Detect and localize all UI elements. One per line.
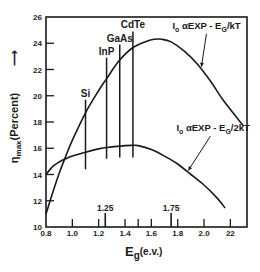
y-tick-label: 24 [33, 39, 42, 48]
y-axis-unit: (Percent) [8, 92, 20, 140]
x-tick-label: 0.8 [40, 229, 52, 238]
curve-label-part: αEXP - E [183, 122, 225, 133]
x-tick-label: 1.2 [93, 229, 105, 238]
x-tick-label: 1.0 [67, 229, 79, 238]
annotation-arrow-line [188, 136, 210, 170]
x-axis-ticks: 0.81.01.21.41.61.82.022 [40, 219, 235, 238]
curve-annotations: Io αEXP - EG/kTIo αEXP - EG/2kT [172, 20, 250, 171]
y-axis-arrow-icon: ⟶ [8, 50, 20, 66]
y-axis-sub: max [14, 140, 23, 157]
curve-label-part: /kT [227, 20, 241, 31]
y-tick-label: 18 [33, 118, 42, 127]
x-tick-label: 2.0 [198, 229, 210, 238]
material-label-cdte: CdTe [121, 19, 146, 30]
x-axis-title: Eg(e.v.) [125, 244, 162, 261]
y-axis-title: ηmax(Percent) ⟶ [8, 50, 23, 163]
efficiency-vs-bandgap-chart: 101214161820222426 0.81.01.21.41.61.82.0… [0, 0, 260, 272]
curve-label-part: /2kT [231, 122, 250, 133]
x-tick-label: 1.8 [172, 229, 184, 238]
y-tick-label: 12 [33, 197, 42, 206]
x-axis-unit: (e.v.) [140, 246, 163, 257]
curve-label: Io αEXP - EG/2kT [176, 122, 250, 135]
y-tick-label: 26 [33, 13, 42, 22]
y-tick-label: 22 [33, 66, 42, 75]
x-axis-symbol: E [125, 244, 134, 259]
marker-tick-label: 1.25 [97, 203, 114, 213]
material-label-inp: InP [99, 46, 115, 57]
curve-label: Io αEXP - EG/kT [172, 20, 240, 33]
material-label-gaas: GaAs [107, 33, 134, 44]
x-tick-label: 22 [226, 229, 235, 238]
svg-text:ηmax(Percent): ηmax(Percent) [8, 92, 23, 163]
marker-tick-label: 1.75 [163, 203, 180, 213]
curve-label-part: αEXP - E [179, 20, 221, 31]
y-tick-label: 16 [33, 144, 42, 153]
arrow-head-icon [200, 63, 204, 67]
y-tick-label: 14 [33, 171, 42, 180]
material-label-si: Si [81, 88, 91, 99]
x-tick-label: 1.4 [119, 229, 131, 238]
annotation-arrow-line [201, 34, 206, 67]
y-tick-label: 20 [33, 92, 42, 101]
x-tick-label: 1.6 [146, 229, 158, 238]
